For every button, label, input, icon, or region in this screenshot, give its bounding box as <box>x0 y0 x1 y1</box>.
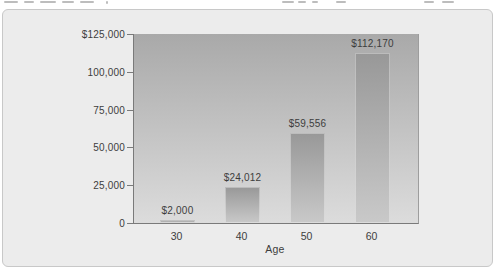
y-axis-tick <box>127 223 133 224</box>
y-axis-tick <box>127 72 133 73</box>
screenshot-root: $2,000$24,012$59,556$112,170 Age $125,00… <box>0 0 499 273</box>
bar-value-label: $2,000 <box>162 205 194 216</box>
x-axis-tick-label: 30 <box>159 230 194 242</box>
plot-area: $2,000$24,012$59,556$112,170 <box>133 34 419 224</box>
bar-age-30 <box>160 220 195 223</box>
y-axis-tick-label: 75,000 <box>23 105 125 116</box>
bar-value-label: $24,012 <box>224 172 262 183</box>
y-axis-tick-label: $125,000 <box>23 29 125 40</box>
x-axis-tick-label: 60 <box>354 230 389 242</box>
y-axis-tick-label: 100,000 <box>23 67 125 78</box>
y-axis-tick-label: 0 <box>23 218 125 229</box>
bar-value-label: $59,556 <box>289 118 327 129</box>
bar-age-50 <box>290 133 325 223</box>
x-axis-title: Age <box>133 243 417 255</box>
bar-age-60 <box>355 53 390 223</box>
bar-value-label: $112,170 <box>351 38 394 49</box>
bar-age-40 <box>225 187 260 223</box>
x-axis-tick-label: 40 <box>224 230 259 242</box>
cropped-text-remnant <box>0 0 499 4</box>
x-axis-tick-label: 50 <box>289 230 324 242</box>
y-axis-tick-label: 25,000 <box>23 180 125 191</box>
y-axis-tick-label: 50,000 <box>23 142 125 153</box>
y-axis-tick <box>127 34 133 35</box>
y-axis-tick <box>127 147 133 148</box>
y-axis-tick <box>127 110 133 111</box>
y-axis-tick <box>127 185 133 186</box>
chart-panel: $2,000$24,012$59,556$112,170 Age $125,00… <box>2 9 493 267</box>
